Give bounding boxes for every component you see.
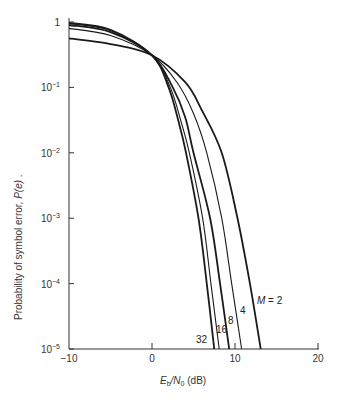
x-tick-label: −10 xyxy=(61,353,78,364)
symbol-error-chart: 110−110−210−310−410−5 −1001020 M = 2 4 8… xyxy=(0,0,341,401)
y-tick-label: 10−4 xyxy=(41,278,60,290)
label-m4: 4 xyxy=(240,305,246,316)
y-tick-label: 10−2 xyxy=(41,147,60,159)
curve-m4 xyxy=(69,28,242,349)
label-m32: 32 xyxy=(196,334,208,345)
label-m2: M = 2 xyxy=(257,295,283,306)
x-tick-label: 10 xyxy=(229,353,241,364)
x-tick-label: 20 xyxy=(312,353,324,364)
curve-m8 xyxy=(69,25,229,349)
y-tick-label: 10−5 xyxy=(41,343,60,355)
y-axis-label: Probability of symbol error, P(e) . xyxy=(13,174,24,320)
y-tick-label: 1 xyxy=(54,17,60,28)
curve-m16 xyxy=(69,23,219,349)
y-tick-label: 10−3 xyxy=(41,212,60,224)
curves xyxy=(69,23,261,349)
curve-m2 xyxy=(69,38,261,349)
x-tick-label: 0 xyxy=(149,353,155,364)
y-tick-label: 10−1 xyxy=(41,81,60,93)
curve-m32 xyxy=(69,23,214,349)
x-axis-label: Eb/N0 (dB) xyxy=(160,375,206,387)
label-m8: 8 xyxy=(228,315,234,326)
label-m16: 16 xyxy=(216,324,228,335)
x-ticks: −1001020 xyxy=(61,343,324,364)
